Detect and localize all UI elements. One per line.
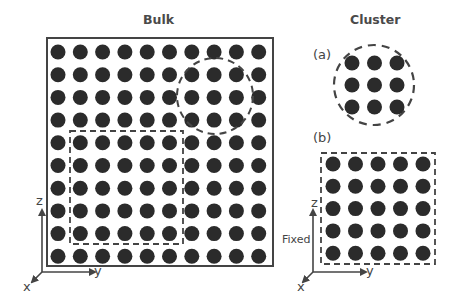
- atom: [140, 45, 155, 60]
- atom: [162, 158, 177, 173]
- atom: [162, 90, 177, 105]
- atom: [162, 249, 177, 264]
- atom: [207, 67, 222, 82]
- atom: [207, 249, 222, 264]
- atom: [73, 181, 88, 196]
- atom: [345, 56, 360, 71]
- atom: [207, 203, 222, 218]
- atom: [184, 135, 199, 150]
- atom: [229, 203, 244, 218]
- atom: [51, 203, 66, 218]
- atom: [348, 201, 363, 216]
- atom: [348, 223, 363, 238]
- atom: [162, 113, 177, 128]
- atom: [371, 201, 386, 216]
- atom: [184, 226, 199, 241]
- atom: [345, 100, 360, 115]
- atom: [251, 67, 266, 82]
- atom: [162, 181, 177, 196]
- bulk-axes: [32, 210, 95, 282]
- atom: [229, 158, 244, 173]
- atom: [95, 45, 110, 60]
- atom: [73, 226, 88, 241]
- atom: [117, 90, 132, 105]
- atom: [229, 135, 244, 150]
- cluster-a-atoms: [345, 56, 405, 115]
- atom: [51, 181, 66, 196]
- atom: [51, 113, 66, 128]
- cluster-b-atoms: [326, 157, 431, 261]
- atom: [229, 249, 244, 264]
- atom: [140, 67, 155, 82]
- atom: [326, 223, 341, 238]
- atom: [207, 113, 222, 128]
- atom: [393, 201, 408, 216]
- lattice-diagram: [0, 0, 457, 308]
- atom: [140, 135, 155, 150]
- atom: [207, 181, 222, 196]
- atom: [207, 158, 222, 173]
- atom: [371, 179, 386, 194]
- atom: [390, 100, 405, 115]
- bulk-atoms: [51, 45, 267, 264]
- atom: [371, 246, 386, 261]
- atom: [371, 223, 386, 238]
- atom: [140, 181, 155, 196]
- atom: [393, 179, 408, 194]
- atom: [73, 158, 88, 173]
- atom: [393, 246, 408, 261]
- atom: [117, 226, 132, 241]
- atom: [207, 135, 222, 150]
- atom: [229, 113, 244, 128]
- atom: [73, 90, 88, 105]
- atom: [95, 226, 110, 241]
- atom: [184, 90, 199, 105]
- atom: [326, 179, 341, 194]
- atom: [184, 158, 199, 173]
- atom: [95, 135, 110, 150]
- atom: [416, 179, 431, 194]
- atom: [184, 45, 199, 60]
- atom: [51, 90, 66, 105]
- atom: [326, 246, 341, 261]
- atom: [95, 90, 110, 105]
- atom: [393, 223, 408, 238]
- atom: [251, 45, 266, 60]
- atom: [162, 135, 177, 150]
- atom: [367, 56, 382, 71]
- atom: [367, 100, 382, 115]
- atom: [345, 78, 360, 93]
- atom: [348, 157, 363, 172]
- atom: [229, 45, 244, 60]
- atom: [95, 181, 110, 196]
- atom: [140, 226, 155, 241]
- atom: [140, 158, 155, 173]
- atom: [95, 249, 110, 264]
- atom: [117, 67, 132, 82]
- atom: [416, 157, 431, 172]
- atom: [184, 181, 199, 196]
- atom: [117, 113, 132, 128]
- atom: [207, 226, 222, 241]
- atom: [51, 135, 66, 150]
- atom: [367, 78, 382, 93]
- atom: [416, 201, 431, 216]
- atom: [95, 158, 110, 173]
- atom: [51, 45, 66, 60]
- atom: [140, 113, 155, 128]
- atom: [251, 135, 266, 150]
- atom: [117, 135, 132, 150]
- atom: [140, 249, 155, 264]
- atom: [207, 90, 222, 105]
- atom: [416, 223, 431, 238]
- atom: [95, 203, 110, 218]
- atom: [348, 179, 363, 194]
- atom: [390, 56, 405, 71]
- atom: [162, 226, 177, 241]
- atom: [73, 135, 88, 150]
- atom: [251, 181, 266, 196]
- atom: [95, 67, 110, 82]
- atom: [229, 181, 244, 196]
- atom: [371, 157, 386, 172]
- atom: [251, 203, 266, 218]
